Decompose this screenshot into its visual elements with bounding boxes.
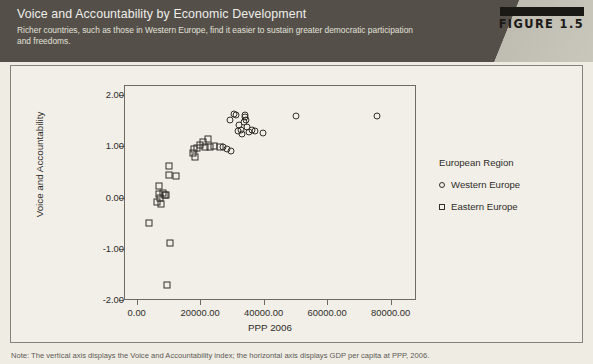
figure-root: Voice and Accountability by Economic Dev… [0, 0, 593, 364]
x-tick-mark [264, 300, 265, 305]
y-tick-label: -2.00 [80, 294, 124, 305]
data-point-eastern-europe [204, 136, 211, 143]
y-tick-label: 0.00 [80, 192, 124, 203]
data-point-eastern-europe [165, 162, 172, 169]
x-tick-mark [327, 300, 328, 305]
x-tick-label: 80000.00 [371, 307, 410, 318]
data-point-western-europe [293, 112, 300, 119]
legend-title: European Region [439, 157, 574, 168]
legend-label-eastern-europe: Eastern Europe [451, 201, 518, 212]
y-tick-row: -2.00 [11, 294, 124, 306]
chart-legend: European Region Western Europe Eastern E… [439, 157, 574, 223]
chart-panel: 2.001.000.00-1.00-2.00 0.0020000.0040000… [10, 65, 583, 343]
figure-header-band: Voice and Accountability by Economic Dev… [0, 0, 593, 62]
data-point-western-europe [252, 128, 259, 135]
x-tick-label: 20000.00 [181, 307, 220, 318]
header-text-group: Voice and Accountability by Economic Dev… [17, 6, 437, 47]
data-point-western-europe [243, 116, 250, 123]
circle-marker-icon [439, 182, 445, 188]
data-point-western-europe [233, 111, 240, 118]
data-point-western-europe [260, 130, 267, 137]
y-tick-label: 2.00 [80, 89, 124, 100]
data-point-eastern-europe [172, 173, 179, 180]
figure-badge-bar [500, 7, 584, 16]
y-tick-label: 1.00 [80, 140, 124, 151]
x-tick-label: 40000.00 [244, 307, 283, 318]
data-point-eastern-europe [157, 200, 164, 207]
x-tick-label: 60000.00 [308, 307, 347, 318]
data-point-eastern-europe [217, 144, 224, 151]
data-point-eastern-europe [163, 191, 170, 198]
y-axis-title: Voice and Accountability [34, 85, 45, 245]
x-tick-mark [200, 300, 201, 305]
data-point-eastern-europe [192, 153, 199, 160]
scatter-chart: 2.001.000.00-1.00-2.00 0.0020000.0040000… [11, 66, 584, 344]
data-point-western-europe [227, 147, 234, 154]
y-tick-row: 2.00 [11, 89, 124, 101]
figure-note: Note: The vertical axis displays the Voi… [11, 351, 581, 364]
data-point-western-europe [238, 130, 245, 137]
square-marker-icon [439, 204, 445, 210]
y-tick-row: 1.00 [11, 140, 124, 152]
figure-subtitle: Richer countries, such as those in Weste… [17, 25, 427, 47]
y-tick-row: 0.00 [11, 192, 124, 204]
y-tick-label: -1.00 [80, 243, 124, 254]
data-point-western-europe [373, 112, 380, 119]
data-point-eastern-europe [145, 220, 152, 227]
data-point-eastern-europe [166, 239, 173, 246]
x-tick-mark [391, 300, 392, 305]
legend-item-western-europe[interactable]: Western Europe [439, 179, 574, 190]
x-tick-label: 0.00 [128, 307, 146, 318]
legend-label-western-europe: Western Europe [451, 179, 520, 190]
figure-number-label: FIGURE 1.5 [499, 17, 584, 31]
y-tick-row: -1.00 [11, 243, 124, 255]
figure-title: Voice and Accountability by Economic Dev… [17, 6, 437, 22]
x-tick-mark [137, 300, 138, 305]
x-axis-title: PPP 2006 [124, 322, 416, 333]
data-point-eastern-europe [164, 281, 171, 288]
legend-item-eastern-europe[interactable]: Eastern Europe [439, 201, 574, 212]
